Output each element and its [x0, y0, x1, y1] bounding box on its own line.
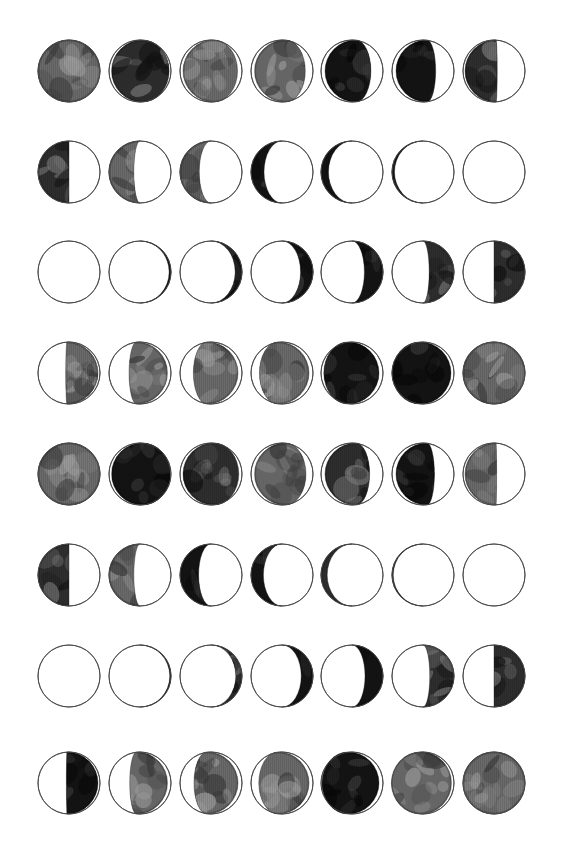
moon-illuminated-region: [95, 331, 179, 415]
moon-phase-waxing-crescent: [108, 240, 172, 304]
moon-illuminated-region: [452, 741, 536, 825]
moon-illuminated-region: [314, 29, 398, 113]
moon-phase-waning-gibbous: [108, 39, 172, 103]
moon-phase-waxing-crescent: [320, 240, 384, 304]
moon-phase-first-quarter: [37, 751, 101, 815]
moon-illuminated-region: [385, 29, 469, 113]
moon-phase-waning-gibbous: [250, 442, 314, 506]
moon-phase-waning-gibbous: [250, 39, 314, 103]
moon-phase-full-moon: [37, 39, 101, 103]
moon-phase-first-quarter: [462, 240, 526, 304]
moon-phase-new-moon: [462, 140, 526, 204]
moon-illuminated-region: [27, 29, 111, 113]
moon-phase-new-moon: [37, 240, 101, 304]
moon-illuminated-region: [165, 741, 249, 825]
moon-illuminated-region: [306, 741, 390, 825]
moon-phase-grid: [0, 0, 581, 859]
moon-phase-full-moon: [462, 341, 526, 405]
moon-phase-waning-gibbous: [108, 442, 172, 506]
moon-phase-last-quarter: [37, 543, 101, 607]
moon-illuminated-region: [244, 432, 328, 516]
moon-illuminated-region: [101, 29, 185, 113]
moon-illuminated-region: [101, 432, 185, 516]
moon-phase-waxing-gibbous: [250, 751, 314, 815]
moon-phase-waxing-crescent: [391, 240, 455, 304]
moon-phase-waxing-crescent: [250, 240, 314, 304]
moon-phase-waning-crescent: [108, 543, 172, 607]
moon-illuminated-region: [236, 741, 320, 825]
moon-phase-waning-gibbous: [179, 442, 243, 506]
moon-phase-waxing-crescent: [250, 644, 314, 708]
moon-phase-waning-crescent: [250, 543, 314, 607]
moon-illuminated-region: [27, 432, 111, 516]
moon-phase-new-moon: [37, 644, 101, 708]
moon-phase-waxing-gibbous: [391, 341, 455, 405]
moon-phase-waxing-gibbous: [391, 751, 455, 815]
moon-phase-first-quarter: [37, 341, 101, 405]
moon-phase-waning-gibbous: [179, 39, 243, 103]
moon-phase-waning-crescent: [179, 543, 243, 607]
moon-phase-waning-gibbous: [320, 442, 384, 506]
moon-illuminated-region: [95, 741, 179, 825]
moon-illuminated-region: [236, 331, 320, 415]
moon-illuminated-region: [165, 331, 249, 415]
moon-phase-waning-crescent: [108, 140, 172, 204]
moon-illuminated-region: [306, 331, 390, 415]
moon-illuminated-region: [172, 432, 256, 516]
moon-phase-waxing-crescent: [391, 644, 455, 708]
moon-illuminated-region: [378, 331, 462, 415]
moon-phase-waning-crescent: [391, 543, 455, 607]
moon-phase-waxing-crescent: [179, 644, 243, 708]
moon-phase-waxing-gibbous: [108, 751, 172, 815]
moon-phase-full-moon: [37, 442, 101, 506]
moon-phase-full-moon: [462, 751, 526, 815]
moon-phase-waxing-gibbous: [320, 341, 384, 405]
moon-phase-waning-gibbous: [391, 442, 455, 506]
moon-phase-new-moon: [462, 543, 526, 607]
moon-phase-last-quarter: [462, 39, 526, 103]
moon-phase-waning-crescent: [391, 140, 455, 204]
moon-illuminated-region: [385, 432, 469, 516]
moon-illuminated-region: [314, 432, 398, 516]
moon-phase-last-quarter: [37, 140, 101, 204]
moon-phase-waxing-gibbous: [108, 341, 172, 405]
moon-phase-waxing-crescent: [320, 644, 384, 708]
moon-phase-waxing-crescent: [108, 644, 172, 708]
moon-phase-waxing-gibbous: [179, 341, 243, 405]
moon-phase-waning-gibbous: [320, 39, 384, 103]
moon-phase-first-quarter: [462, 644, 526, 708]
moon-phase-waxing-gibbous: [179, 751, 243, 815]
moon-illuminated-region: [452, 331, 536, 415]
moon-phase-waning-crescent: [320, 140, 384, 204]
moon-phase-waxing-gibbous: [320, 751, 384, 815]
moon-phase-waning-crescent: [250, 140, 314, 204]
moon-illuminated-region: [244, 29, 328, 113]
moon-phase-waxing-crescent: [179, 240, 243, 304]
moon-phase-waning-crescent: [179, 140, 243, 204]
moon-phase-waning-crescent: [320, 543, 384, 607]
moon-phase-waning-gibbous: [391, 39, 455, 103]
moon-illuminated-region: [172, 29, 256, 113]
moon-phase-waxing-gibbous: [250, 341, 314, 405]
moon-phase-last-quarter: [462, 442, 526, 506]
